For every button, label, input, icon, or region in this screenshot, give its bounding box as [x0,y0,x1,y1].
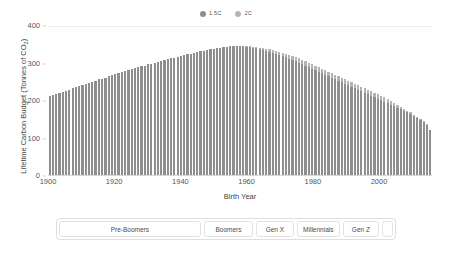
x-axis-baseline [48,175,432,176]
generation-segment-pre-boomers[interactable]: Pre-Boomers [59,221,201,237]
y-tick-mark [43,138,46,139]
x-axis: 190019201940196019802000 [48,178,432,190]
x-tick-label: 1940 [172,178,189,186]
generation-segment-boomers[interactable]: Boomers [204,221,254,237]
legend-label-2c: 2C [244,11,251,17]
x-tick-label: 1960 [238,178,255,186]
generation-segment-millennials[interactable]: Millennials [297,221,340,237]
legend-item-15c[interactable]: 1.5C [200,11,221,17]
chart-legend: 1.5C 2C [0,8,452,20]
y-axis-title-subscript: 2 [23,41,29,44]
bar-group [429,26,431,175]
y-tick-mark [43,63,46,64]
generation-segment-gen-x[interactable]: Gen X [256,221,293,237]
bar-15c [429,130,431,175]
legend-swatch-15c-icon [200,11,206,17]
y-tick-label: 200 [27,97,40,105]
y-tick-label: 400 [27,22,40,30]
generation-segment-gen-z[interactable]: Gen Z [343,221,379,237]
y-tick-label: 300 [27,60,40,68]
x-tick-label: 1920 [106,178,123,186]
legend-item-2c[interactable]: 2C [235,11,251,17]
generation-segment-empty[interactable] [382,221,393,237]
y-tick-mark [43,101,46,102]
x-tick-label: 1980 [304,178,321,186]
carbon-budget-chart-page: 1.5C 2C 0100200300400 Lifetime Carbon Bu… [0,0,452,258]
legend-swatch-2c-icon [235,11,241,17]
legend-label-15c: 1.5C [209,11,221,17]
y-axis-title-suffix: ) [19,39,28,42]
bar-slot[interactable] [429,26,432,175]
x-tick-label: 2000 [371,178,388,186]
bar-series-container [48,26,432,175]
y-tick-label: 100 [27,135,40,143]
x-axis-title: Birth Year [48,192,432,201]
y-tick-mark [43,26,46,27]
y-axis-title: Lifetime Carbon Budget (Tonnes of CO2) [19,26,30,186]
y-axis-title-prefix: Lifetime Carbon Budget (Tonnes of CO [19,44,28,173]
plot-area [48,26,432,176]
x-tick-label: 1900 [40,178,57,186]
generation-segmented-control[interactable]: Pre-BoomersBoomersGen XMillennialsGen Z [56,218,396,240]
